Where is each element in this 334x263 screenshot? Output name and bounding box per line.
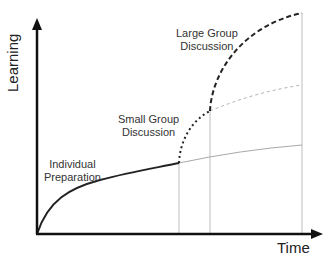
individual-preparation-label: Individual Preparation — [44, 158, 101, 184]
large-group-discussion-label: Large Group Discussion — [176, 27, 238, 53]
small-group-continuation-curve — [210, 85, 302, 111]
y-axis-label: Learning — [4, 34, 21, 92]
individual-continuation-curve — [179, 145, 302, 163]
x-axis-label: Time — [277, 239, 310, 256]
small-group-discussion-curve — [179, 111, 210, 163]
x-axis-arrow-icon — [311, 229, 323, 239]
learning-diagram: Learning Time Individual Preparation Sma… — [0, 0, 334, 263]
y-axis-arrow-icon — [32, 18, 42, 30]
small-group-discussion-label: Small Group Discussion — [118, 113, 179, 139]
